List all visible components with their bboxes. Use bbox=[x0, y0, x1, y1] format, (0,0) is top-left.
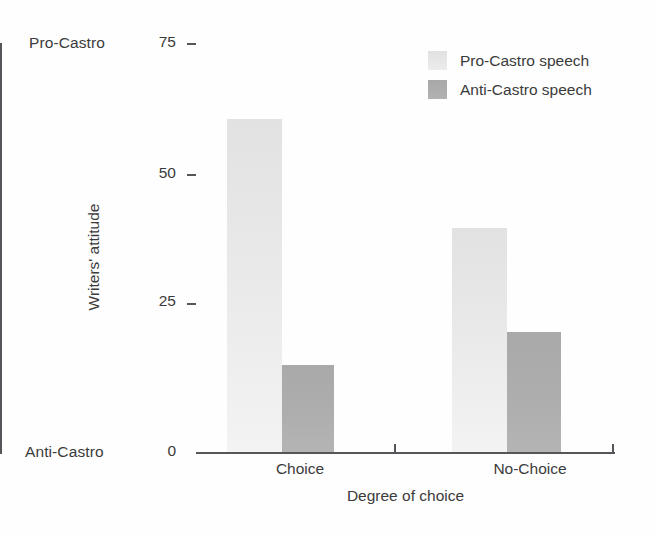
y-axis-top-anchor-label: Pro-Castro bbox=[29, 34, 105, 52]
x-category-label-choice: Choice bbox=[220, 460, 380, 478]
bar-chart-figure: Pro-Castro Anti-Castro 75 50 25 0 Writer… bbox=[0, 0, 658, 538]
plot-area bbox=[196, 43, 613, 452]
y-tick-mark-75 bbox=[187, 43, 196, 45]
y-tick-label-25: 25 bbox=[142, 292, 176, 310]
y-tick-label-75: 75 bbox=[142, 33, 176, 51]
bar-choice-pro-castro bbox=[227, 119, 282, 452]
y-axis-title: Writers' attitude bbox=[85, 157, 103, 357]
chart-legend: Pro-Castro speech Anti-Castro speech bbox=[428, 46, 592, 104]
bar-choice-anti-castro bbox=[282, 365, 334, 452]
legend-item-anti-castro: Anti-Castro speech bbox=[428, 75, 592, 104]
y-tick-label-0: 0 bbox=[142, 442, 176, 460]
bar-no-choice-pro-castro bbox=[452, 228, 507, 452]
y-tick-mark-25 bbox=[187, 303, 196, 305]
x-axis-line bbox=[196, 452, 615, 454]
legend-swatch-anti-castro bbox=[428, 80, 447, 99]
legend-label-pro-castro: Pro-Castro speech bbox=[460, 52, 589, 70]
bar-no-choice-anti-castro bbox=[507, 332, 561, 452]
y-tick-mark-50 bbox=[187, 174, 196, 176]
x-axis-title: Degree of choice bbox=[196, 487, 615, 505]
legend-item-pro-castro: Pro-Castro speech bbox=[428, 46, 592, 75]
legend-swatch-pro-castro bbox=[428, 51, 447, 70]
y-axis-bottom-anchor-label: Anti-Castro bbox=[25, 443, 104, 461]
x-category-label-no-choice: No-Choice bbox=[440, 460, 620, 478]
y-axis-line bbox=[0, 43, 2, 454]
page-edge bbox=[0, 534, 658, 538]
legend-label-anti-castro: Anti-Castro speech bbox=[460, 81, 592, 99]
y-tick-label-50: 50 bbox=[142, 164, 176, 182]
